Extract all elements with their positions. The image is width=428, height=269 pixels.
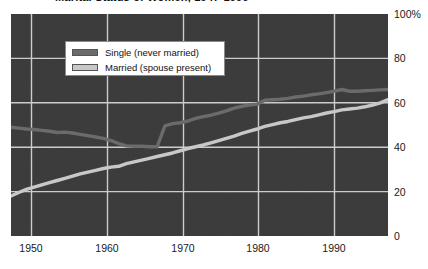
legend-entry-single: Single (never married) (72, 45, 220, 59)
x-axis-tick-1960: 1960 (87, 242, 127, 254)
x-axis-tick-1990: 1990 (314, 242, 354, 254)
x-axis-tick-1970: 1970 (163, 242, 203, 254)
chart-title-clipped: Marital Status of Women, 1947-1996 (55, 0, 355, 3)
y-axis-tick-0: 0 (394, 230, 400, 242)
y-axis-tick-100: 100% (394, 8, 421, 20)
x-axis-tick-1980: 1980 (238, 242, 278, 254)
legend-label-married: Married (spouse present) (105, 62, 211, 73)
legend-swatch-icon-married (72, 64, 98, 71)
plot-area: Single (never married) Married (spouse p… (11, 14, 388, 236)
x-axis-tick-1950: 1950 (11, 242, 51, 254)
y-axis-tick-40: 40 (394, 141, 406, 153)
legend-label-single: Single (never married) (105, 47, 199, 58)
chart-legend: Single (never married) Married (spouse p… (65, 41, 225, 76)
legend-swatch-icon-single (72, 49, 98, 56)
y-axis-tick-80: 80 (394, 52, 406, 64)
y-axis-tick-60: 60 (394, 97, 406, 109)
chart-figure: Marital Status of Women, 1947-1996 (0, 0, 428, 269)
y-axis-tick-20: 20 (394, 186, 406, 198)
legend-entry-married: Married (spouse present) (72, 60, 220, 74)
